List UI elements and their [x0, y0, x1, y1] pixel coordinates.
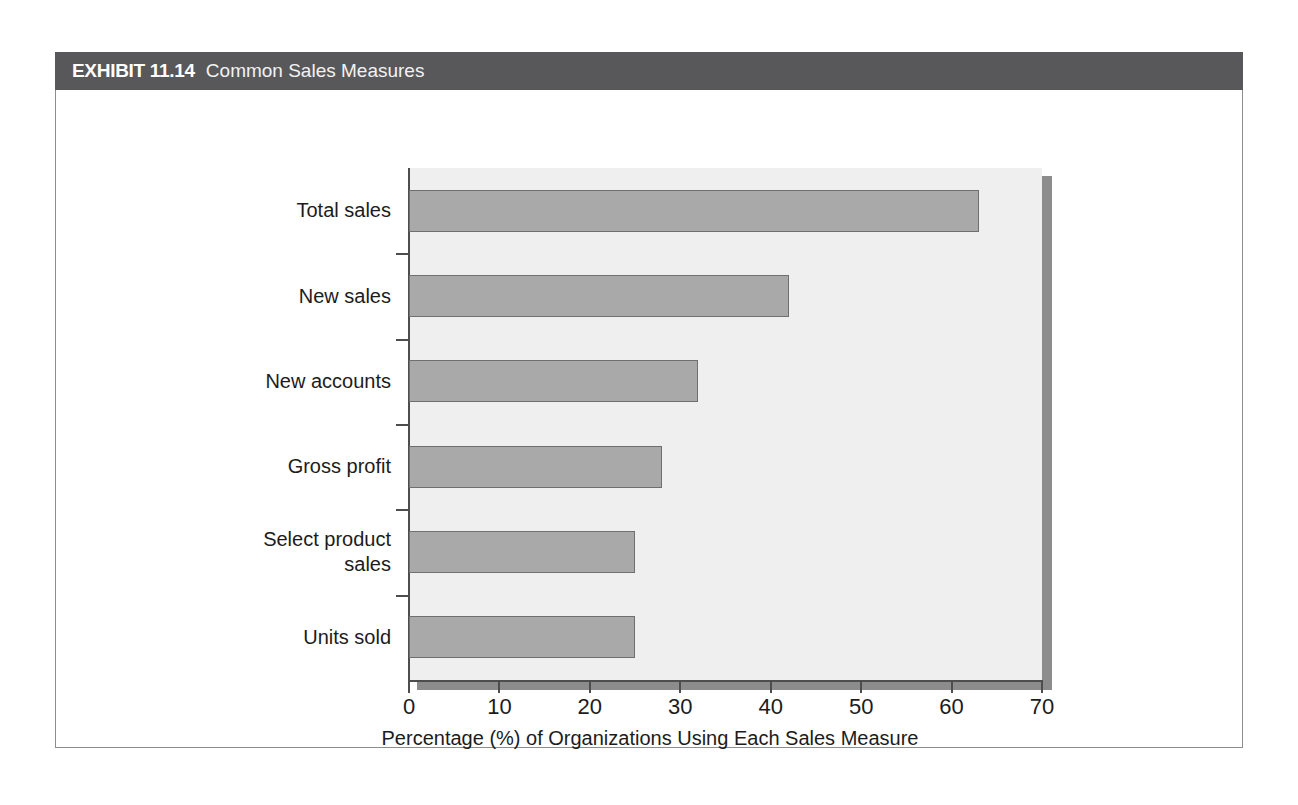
x-axis-tick [951, 680, 953, 693]
x-axis-tick-label: 0 [379, 694, 439, 720]
x-axis-tick [770, 680, 772, 693]
exhibit-number: EXHIBIT 11.14 [72, 60, 195, 82]
x-axis-tick-label: 20 [560, 694, 620, 720]
exhibit-header: EXHIBIT 11.14 Common Sales Measures [55, 52, 1243, 90]
x-axis-ticks-layer: 010203040506070 [56, 90, 1244, 748]
x-axis-title: Percentage (%) of Organizations Using Ea… [56, 727, 1244, 750]
x-axis-tick [408, 680, 410, 693]
x-axis-tick-label: 50 [831, 694, 891, 720]
exhibit-title: Common Sales Measures [206, 60, 425, 82]
x-axis-tick-label: 70 [1012, 694, 1072, 720]
exhibit-frame: EXHIBIT 11.14 Common Sales Measures Tota… [55, 52, 1243, 748]
exhibit-body: Total salesNew salesNew accountsGross pr… [55, 90, 1243, 748]
x-axis-tick [498, 680, 500, 693]
exhibit-page: EXHIBIT 11.14 Common Sales Measures Tota… [0, 0, 1298, 805]
bar-chart: Total salesNew salesNew accountsGross pr… [56, 90, 1244, 748]
x-axis-tick [589, 680, 591, 693]
x-axis-tick-label: 60 [922, 694, 982, 720]
x-axis-tick-label: 10 [469, 694, 529, 720]
x-axis-tick-label: 40 [741, 694, 801, 720]
x-axis-tick [679, 680, 681, 693]
x-axis-tick-label: 30 [650, 694, 710, 720]
x-axis-tick [1041, 680, 1043, 693]
x-axis-tick [860, 680, 862, 693]
